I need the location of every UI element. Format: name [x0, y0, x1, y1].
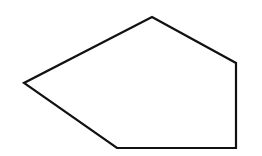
- pentagon-figure: [0, 0, 262, 156]
- pentagon-shape: [24, 17, 236, 148]
- diagram-canvas: [0, 0, 262, 156]
